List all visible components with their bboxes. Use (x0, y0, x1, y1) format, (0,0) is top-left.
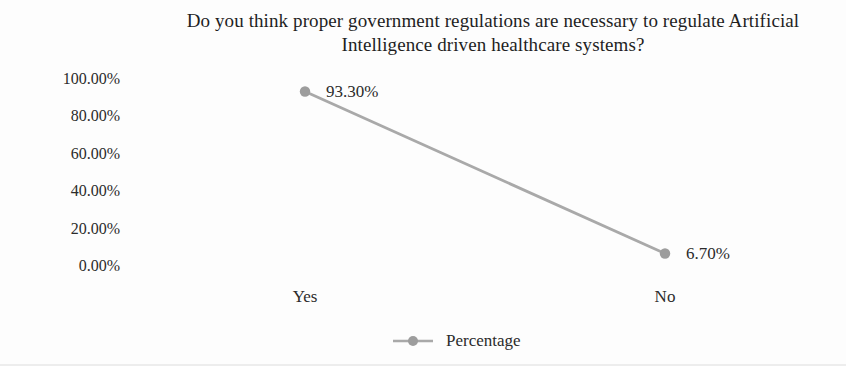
survey-line-chart-figure: Do you think proper government regulatio… (0, 0, 846, 366)
legend-label: Percentage (446, 331, 521, 351)
x-axis-category-label: No (655, 287, 676, 307)
plot-area (0, 0, 846, 366)
legend: Percentage (392, 331, 521, 351)
legend-line-marker-icon (392, 334, 434, 348)
x-axis-category-labels: YesNo (0, 287, 846, 309)
data-point-marker (300, 86, 310, 96)
data-point-marker (660, 248, 670, 258)
x-axis-category-label: Yes (293, 287, 318, 307)
percentage-series-line (305, 92, 665, 254)
data-point-value-label: 6.70% (686, 244, 730, 264)
data-point-value-label: 93.30% (326, 82, 378, 102)
